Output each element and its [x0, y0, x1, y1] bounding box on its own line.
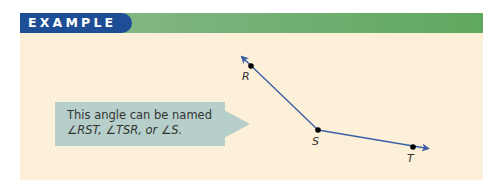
point-t: [410, 144, 416, 150]
point-label-r: R: [242, 70, 250, 83]
point-r: [248, 63, 254, 69]
point-label-t: T: [407, 152, 414, 165]
point-s: [315, 127, 321, 133]
angle-diagram: [0, 0, 499, 194]
point-label-s: S: [312, 135, 319, 148]
ray-sr: [242, 57, 318, 130]
